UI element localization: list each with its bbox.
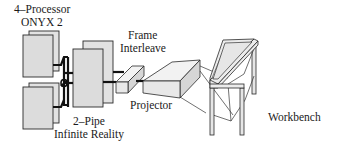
frame-interleave-box: [116, 66, 144, 93]
frame-interleave-label-line1: Frame: [128, 29, 157, 41]
workbench-table: [210, 39, 258, 135]
graphics-pipes-unit: [73, 41, 113, 107]
system-diagram: 4–Processor ONYX 2 2–Pipe Infinite Reali…: [0, 0, 339, 150]
projector-device: [143, 60, 200, 98]
workbench-label: Workbench: [268, 111, 321, 123]
projector-label: Projector: [130, 99, 172, 112]
workbench-screen: [213, 42, 252, 79]
frame-interleave-label-line2: Interleave: [120, 42, 166, 54]
processor-label-line2: ONYX 2: [21, 16, 63, 28]
pipe-label-line1: 2–Pipe: [73, 115, 105, 128]
processor-label-line1: 4–Processor: [14, 3, 70, 15]
pipe-label-line2: Infinite Reality: [54, 128, 124, 141]
processor-upper-unit: [23, 31, 59, 77]
